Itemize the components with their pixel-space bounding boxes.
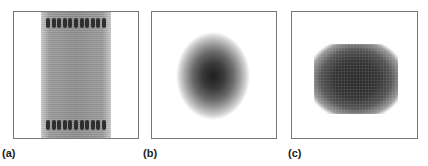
top-dot-row xyxy=(46,18,106,28)
bottom-dot-row xyxy=(46,120,106,130)
dark-square xyxy=(314,44,398,114)
panel-a-label: (a) xyxy=(2,147,15,159)
panel-c-label: (c) xyxy=(288,147,301,159)
panel-a-image xyxy=(13,11,139,139)
panel-c-image xyxy=(291,11,418,139)
panel-b-image xyxy=(151,11,277,139)
panel-b-label: (b) xyxy=(143,147,157,159)
gray-blob xyxy=(176,32,250,120)
